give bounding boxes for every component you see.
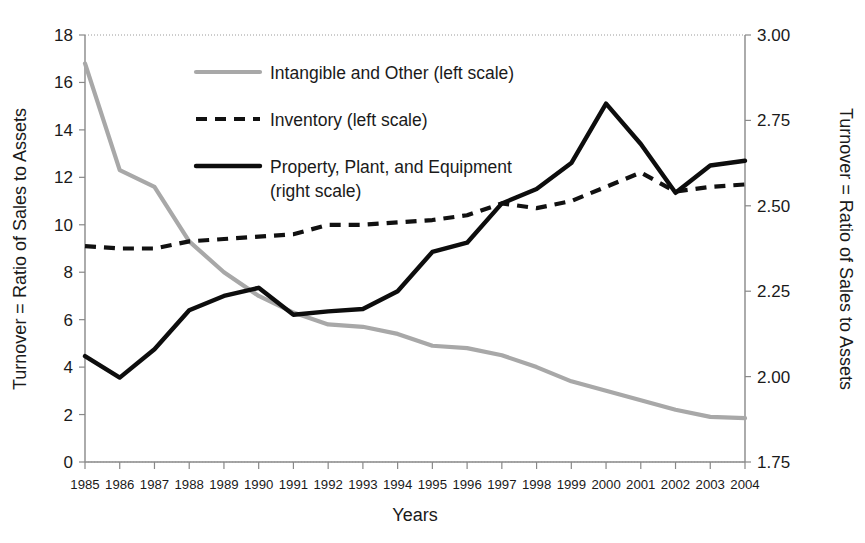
x-axis-tick-label: 1999	[557, 477, 586, 492]
x-axis-tick-label: 1991	[279, 477, 308, 492]
y-left-tick-label: 2	[64, 406, 73, 425]
x-axis-tick-label: 1993	[348, 477, 377, 492]
chart-figure: 1985198619871988198919901991199219931994…	[0, 0, 865, 543]
y-axis-left-title: Turnover = Ratio of Sales to Assets	[10, 108, 30, 390]
x-axis-tick-label: 1996	[452, 477, 481, 492]
x-axis-tick-label: 1995	[418, 477, 447, 492]
y-right-tick-label: 1.75	[757, 453, 790, 472]
x-axis-tick-label: 1988	[175, 477, 204, 492]
y-left-tick-label: 14	[54, 121, 73, 140]
x-axis-tick-label: 2001	[626, 477, 655, 492]
x-axis-tick-label: 2003	[696, 477, 725, 492]
x-axis-tick-label: 1992	[313, 477, 342, 492]
x-axis-tick-label: 1994	[383, 477, 412, 492]
x-axis-tick-label: 1986	[105, 477, 134, 492]
x-axis-tick-label: 2002	[661, 477, 690, 492]
x-axis-tick-label: 1998	[522, 477, 551, 492]
x-axis-tick-label: 1990	[244, 477, 273, 492]
y-left-tick-label: 16	[54, 73, 73, 92]
y-left-tick-label: 8	[64, 263, 73, 282]
y-left-tick-label: 10	[54, 216, 73, 235]
y-right-tick-label: 2.50	[757, 197, 790, 216]
x-axis-tick-label: 1987	[140, 477, 169, 492]
legend-label: (right scale)	[270, 181, 361, 201]
legend-label: Property, Plant, and Equipment	[270, 157, 512, 177]
x-axis-tick-label: 1985	[70, 477, 99, 492]
y-right-tick-label: 2.75	[757, 111, 790, 130]
y-left-tick-label: 6	[64, 311, 73, 330]
y-axis-right-title: Turnover = Ratio of Sales to Assets	[836, 108, 856, 390]
x-axis-tick-label: 2004	[730, 477, 759, 492]
legend-label: Intangible and Other (left scale)	[270, 63, 514, 83]
x-axis-title: Years	[392, 505, 437, 525]
y-right-tick-label: 2.25	[757, 282, 790, 301]
y-right-tick-label: 3.00	[757, 26, 790, 45]
legend-label: Inventory (left scale)	[270, 110, 428, 130]
x-axis-tick-label: 1997	[487, 477, 516, 492]
y-left-tick-label: 12	[54, 168, 73, 187]
y-left-tick-label: 0	[64, 453, 73, 472]
y-right-tick-label: 2.00	[757, 368, 790, 387]
line-chart: 1985198619871988198919901991199219931994…	[0, 0, 865, 543]
x-axis-tick-label: 1989	[209, 477, 238, 492]
y-left-tick-label: 4	[64, 358, 73, 377]
y-left-tick-label: 18	[54, 26, 73, 45]
x-axis-tick-label: 2000	[591, 477, 620, 492]
